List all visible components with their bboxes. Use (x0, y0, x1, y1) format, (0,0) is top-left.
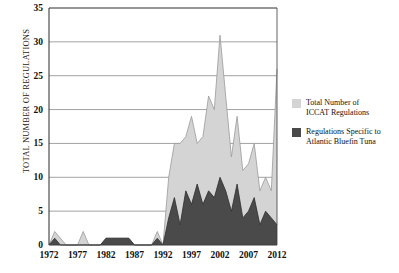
legend-label-total-line2: ICCAT Regulations (306, 108, 369, 118)
chart-legend: Total Number of ICCAT Regulations Regula… (292, 98, 398, 156)
legend-label-total-line1: Total Number of (306, 98, 369, 108)
legend-label-bluefin: Regulations Specific to Atlantic Bluefin… (306, 127, 381, 146)
legend-swatch-bluefin (292, 128, 301, 137)
legend-item-total: Total Number of ICCAT Regulations (292, 98, 398, 117)
legend-item-bluefin: Regulations Specific to Atlantic Bluefin… (292, 127, 398, 146)
legend-label-bluefin-line1: Regulations Specific to (306, 127, 381, 137)
legend-swatch-total (292, 99, 301, 108)
legend-label-bluefin-line2: Atlantic Bluefin Tuna (306, 137, 381, 147)
chart-container: TOTAL NUMBER OF REGULATIONS 051015202530… (0, 0, 399, 273)
legend-label-total: Total Number of ICCAT Regulations (306, 98, 369, 117)
area-series-total (49, 35, 277, 245)
